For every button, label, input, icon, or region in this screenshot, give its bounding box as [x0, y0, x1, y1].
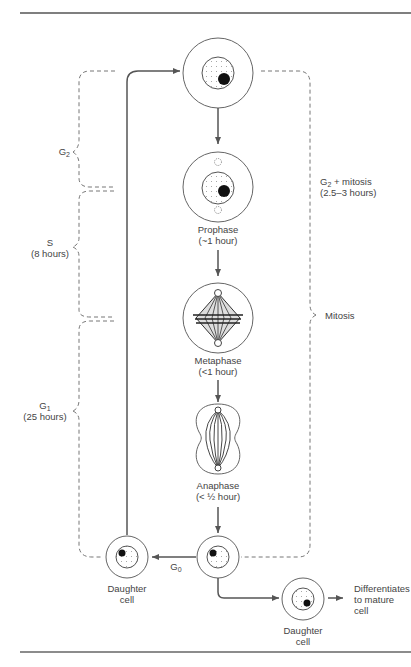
g2-label: G2	[50, 146, 70, 157]
g0-label: G0	[166, 561, 186, 572]
metaphase-cell	[183, 283, 253, 353]
return-arrow	[127, 71, 180, 535]
anaphase-label: Anaphase (< ½ hour)	[178, 480, 258, 502]
left-phase-bracket	[73, 71, 115, 557]
cell-cycle-diagram	[0, 0, 411, 667]
s-phase-label: S (8 hours)	[20, 237, 80, 259]
anaphase-cell	[196, 404, 240, 474]
metaphase-label: Metaphase (<1 hour)	[178, 355, 258, 377]
right-daughter-cell	[282, 578, 324, 620]
g2-mitosis-label: G2 + mitosis (2.5–3 hours)	[320, 176, 377, 198]
left-daughter-cell	[106, 536, 148, 578]
post-mitosis-cell	[197, 536, 239, 578]
differentiates-label: Differentiates to mature cell	[354, 583, 410, 616]
right-daughter-label: Daughter cell	[268, 625, 338, 647]
prophase-cell	[183, 152, 253, 222]
prophase-label: Prophase (~1 hour)	[178, 224, 258, 246]
interphase-cell	[183, 38, 253, 108]
left-daughter-label: Daughter cell	[92, 583, 162, 605]
mitosis-label: Mitosis	[325, 310, 355, 321]
g1-phase-label: G1 (25 hours)	[14, 400, 76, 422]
